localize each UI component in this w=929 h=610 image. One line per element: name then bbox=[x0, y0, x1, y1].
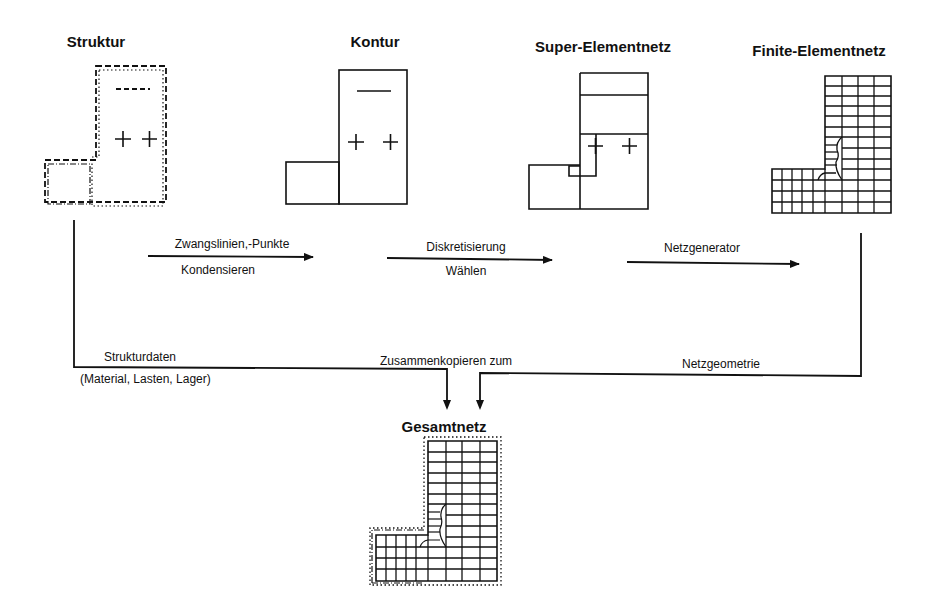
flow-lines bbox=[74, 220, 861, 410]
arrow-zwangslinien bbox=[148, 256, 313, 257]
super-elementnetz-figure bbox=[529, 73, 648, 209]
strukturdaten-line bbox=[74, 220, 447, 400]
finite-elementnetz-figure bbox=[772, 76, 891, 213]
gesamtnetz-figure bbox=[370, 437, 501, 585]
process-arrows bbox=[148, 256, 799, 264]
struktur-figure bbox=[45, 66, 166, 206]
diagram-canvas bbox=[0, 0, 929, 610]
arrow-diskretisierung bbox=[387, 258, 552, 260]
arrow-netzgenerator bbox=[627, 262, 799, 264]
kontur-figure bbox=[286, 70, 407, 204]
netzgeometrie-line bbox=[480, 233, 861, 400]
